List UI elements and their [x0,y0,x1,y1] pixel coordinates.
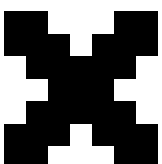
pixel-block [4,11,26,34]
pixel-block [92,34,114,56]
pixel-block [136,11,158,34]
pixel-block [70,56,92,79]
pixel-block [48,124,70,146]
pixel-block [48,79,70,101]
pixel-block [114,146,136,164]
pixel-block [26,101,48,124]
pixel-block [136,34,158,56]
pixel-block [4,146,26,164]
pixel-block [92,56,114,79]
pixel-block [114,34,136,56]
pixel-block [114,124,136,146]
pixel-block [70,79,92,101]
pixel-block [48,34,70,56]
pixel-block [48,101,70,124]
pixel-x-icon [0,0,162,164]
pixel-block [48,56,70,79]
pixel-block [26,11,48,34]
pixel-block [26,34,48,56]
pixel-block [92,79,114,101]
pixel-block [26,146,48,164]
pixel-block [114,101,136,124]
pixel-block [114,11,136,34]
pixel-block [26,56,48,79]
pixel-block [136,124,158,146]
pixel-block [4,124,26,146]
pixel-block [70,101,92,124]
pixel-block [92,124,114,146]
pixel-block [26,124,48,146]
pixel-block [4,34,26,56]
pixel-block [114,56,136,79]
pixel-block [92,101,114,124]
pixel-block [136,146,158,164]
